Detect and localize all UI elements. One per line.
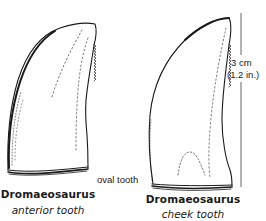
cheek-tooth-caption: cheek tooth xyxy=(144,208,242,220)
anterior-tooth-caption: anterior tooth xyxy=(0,204,96,216)
tooth-comparison-figure: 3 cm (1.2 in.) oval tooth Dromaeosaurus … xyxy=(0,0,266,221)
oval-tooth-annotation: oval tooth xyxy=(97,174,138,185)
cheek-tooth-genus: Dromaeosaurus xyxy=(144,193,242,205)
scale-metric-label: 3 cm xyxy=(231,57,252,68)
anterior-tooth-genus: Dromaeosaurus xyxy=(0,188,96,200)
cheek-tooth-drawing xyxy=(149,18,232,190)
anterior-tooth-drawing xyxy=(8,23,96,175)
scale-imperial-label: (1.2 in.) xyxy=(227,69,259,80)
